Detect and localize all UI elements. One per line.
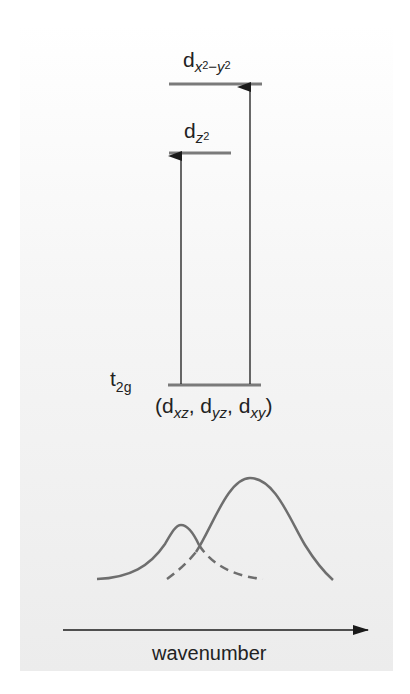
label-symbol: t bbox=[110, 367, 116, 390]
band-low-dashed bbox=[199, 545, 263, 579]
band-high-dashed bbox=[167, 552, 196, 579]
label-dx2-y2: dx2−y2 bbox=[183, 49, 231, 70]
label-dz2: dz2 bbox=[184, 120, 209, 141]
label-t2g: t2g bbox=[110, 368, 131, 389]
label-symbol: d bbox=[183, 48, 195, 71]
label-t2g-orbitals: (dxz, dyz, dxy) bbox=[155, 395, 272, 416]
energy-level-diagram bbox=[0, 0, 410, 694]
axis-label-wavenumber: wavenumber bbox=[152, 643, 267, 663]
label-symbol: d bbox=[184, 119, 196, 142]
label-subscript: 2g bbox=[116, 379, 132, 395]
band-high-solid bbox=[196, 478, 333, 580]
label-subscript: x2−y2 bbox=[195, 58, 231, 75]
label-subscript: z2 bbox=[196, 129, 210, 146]
band-low-solid bbox=[97, 525, 199, 579]
